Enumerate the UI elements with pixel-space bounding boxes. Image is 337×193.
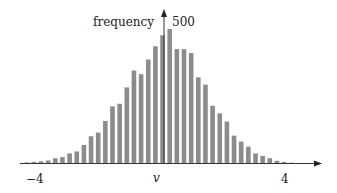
histogram-bar <box>210 106 215 163</box>
histogram-bar <box>175 49 180 163</box>
histogram-bar <box>239 142 244 163</box>
histogram-bar <box>110 106 115 163</box>
histogram-bar <box>60 157 65 163</box>
histogram-bar <box>153 46 158 163</box>
histogram-bar <box>217 113 222 163</box>
histogram-bar <box>260 156 265 163</box>
histogram-bar <box>232 136 237 163</box>
histogram-bar <box>189 53 194 163</box>
histogram-bar <box>182 49 187 163</box>
histogram-bar <box>146 60 151 163</box>
histogram-bar <box>282 162 287 163</box>
histogram-bar <box>125 87 130 163</box>
x-tick-label-4: 4 <box>281 173 289 185</box>
histogram-chart <box>0 0 337 193</box>
histogram-bar <box>24 162 29 163</box>
histogram-bar <box>74 151 79 163</box>
histogram-bar <box>39 161 44 163</box>
histogram-bar <box>82 145 87 163</box>
x-tick-label-neg4: −4 <box>26 173 44 185</box>
histogram-bar <box>132 71 137 164</box>
histogram-bar <box>89 136 94 163</box>
histogram-bar <box>225 122 230 163</box>
histogram-bar <box>196 77 201 163</box>
y-axis-arrow-icon <box>161 9 167 17</box>
histogram-bar <box>32 162 37 163</box>
histogram-bar <box>46 160 51 163</box>
x-axis-label: v <box>153 172 160 184</box>
histogram-bar <box>203 85 208 163</box>
histogram-bar <box>117 104 122 163</box>
histogram-bar <box>103 121 108 163</box>
histogram-bars <box>24 29 293 163</box>
histogram-bar <box>275 161 280 163</box>
histogram-bar <box>139 74 144 163</box>
histogram-bar <box>67 153 72 163</box>
x-axis-arrow-icon <box>314 161 322 167</box>
histogram-bar <box>268 158 273 163</box>
histogram-bar <box>246 147 251 163</box>
histogram-bar <box>96 133 101 163</box>
y-axis-label: frequency <box>93 16 154 28</box>
y-tick-label-500: 500 <box>172 16 195 28</box>
histogram-bar <box>167 29 172 163</box>
histogram-bar <box>53 158 58 163</box>
histogram-bar <box>253 153 258 163</box>
